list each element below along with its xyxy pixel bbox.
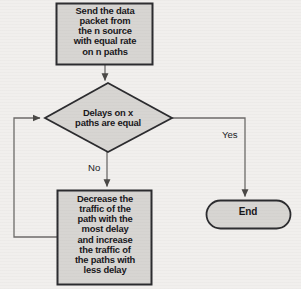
flowchart-canvas: Send the data packet from the n source w… xyxy=(0,0,301,289)
node-decision[interactable] xyxy=(45,83,172,152)
edge-decision-yes xyxy=(172,118,245,197)
edge-feedback-loop xyxy=(14,118,57,237)
node-process-start[interactable] xyxy=(57,4,153,65)
node-process-adjust[interactable] xyxy=(58,191,152,285)
flowchart-graphics xyxy=(0,0,301,289)
node-terminator-end[interactable] xyxy=(207,201,291,229)
